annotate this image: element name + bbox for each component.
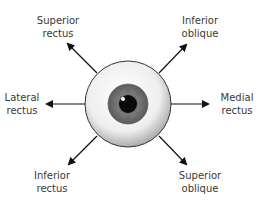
arrow-inferior-rectus (69, 136, 97, 164)
label-lateral-rectus: Lateral rectus (0, 91, 44, 117)
arrow-inferior-oblique (159, 45, 186, 73)
arrow-superior-oblique (159, 136, 186, 164)
label-superior-rectus: Superior rectus (28, 14, 88, 40)
arrow-superior-rectus (68, 44, 97, 73)
label-superior-oblique: Superior oblique (170, 169, 230, 195)
label-medial-rectus: Medial rectus (212, 91, 262, 117)
eyeball (85, 61, 171, 147)
label-inferior-rectus: Inferior rectus (22, 169, 82, 195)
highlight (121, 97, 125, 101)
label-inferior-oblique: Inferior oblique (170, 14, 230, 40)
